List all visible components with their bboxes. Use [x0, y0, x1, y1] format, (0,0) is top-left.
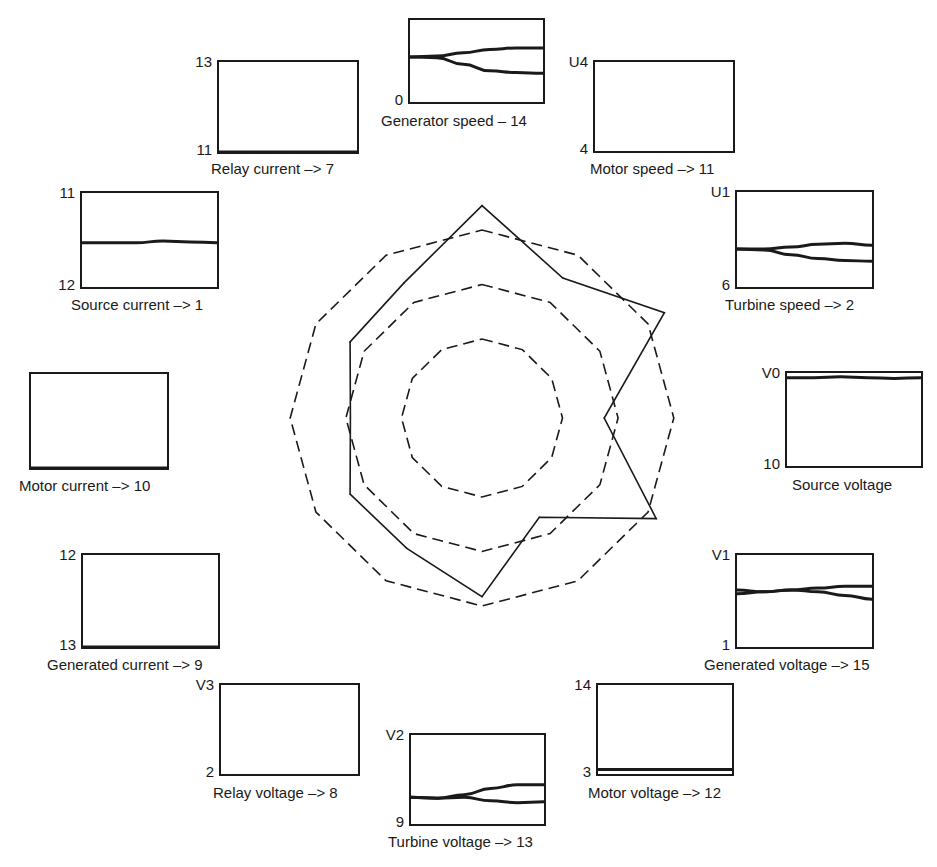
- mini-chart-frame: [219, 683, 360, 776]
- ring-middle: [346, 285, 618, 552]
- profile-vertex: [481, 205, 483, 207]
- trace-line-2: [410, 57, 543, 73]
- profile-vertex: [603, 417, 605, 419]
- mini-chart-plot: [598, 685, 732, 774]
- profile-vertex: [664, 312, 666, 314]
- mini-chart-frame: [735, 190, 874, 289]
- profile-vertex: [481, 596, 483, 598]
- mini-chart-plot: [737, 555, 872, 647]
- mini-chart-frame: [81, 553, 220, 649]
- panel-caption: Relay voltage –> 8: [213, 784, 338, 801]
- trace-line-1: [410, 48, 543, 57]
- profile-vertex: [406, 548, 408, 550]
- axis-bottom-label: 9: [364, 814, 404, 829]
- axis-bottom-label: 0: [363, 92, 403, 107]
- panel-caption: Motor current –> 10: [19, 477, 150, 494]
- mini-chart-plot: [411, 735, 544, 824]
- trace-line-1: [82, 241, 217, 243]
- profile-vertex: [350, 417, 352, 419]
- mini-chart-plot: [595, 62, 733, 151]
- axis-top-label: U4: [548, 54, 588, 69]
- profile-vertex: [403, 282, 405, 284]
- profile-polygon: [350, 206, 664, 597]
- axis-top-label: 11: [35, 185, 75, 200]
- profile-vertex: [349, 493, 351, 495]
- trace-line-2: [737, 590, 872, 599]
- mini-chart-frame: [408, 18, 545, 104]
- trace-line-2: [411, 797, 544, 802]
- mini-chart-frame: [29, 372, 169, 470]
- panel-caption: Motor speed –> 11: [590, 160, 714, 177]
- axis-top-label: 13: [172, 54, 212, 69]
- panel-caption: Turbine speed –> 2: [725, 296, 854, 313]
- mini-chart-plot: [31, 374, 167, 468]
- profile-vertex: [562, 277, 564, 279]
- axis-bottom-label: 3: [551, 764, 591, 779]
- mini-chart-frame: [785, 371, 923, 468]
- mini-chart-plot: [219, 62, 357, 152]
- panel-caption: Source current –> 1: [71, 296, 203, 313]
- panel-caption: Turbine voltage –> 13: [388, 833, 533, 850]
- axis-bottom-label: 2: [174, 764, 214, 779]
- mini-chart-plot: [83, 555, 218, 647]
- trace-line-1: [787, 377, 921, 379]
- axis-top-label: 12: [36, 547, 76, 562]
- mini-chart-plot: [787, 373, 921, 466]
- trace-line-2: [737, 249, 872, 261]
- axis-top-label: U1: [690, 184, 730, 199]
- axis-top-label: V2: [364, 727, 404, 742]
- axis-top-label: 14: [551, 677, 591, 692]
- mini-chart-frame: [735, 553, 874, 649]
- mini-chart-plot: [221, 685, 358, 774]
- axis-top-label: V1: [690, 547, 730, 562]
- axis-top-label: V0: [740, 365, 780, 380]
- profile-vertex: [539, 517, 541, 519]
- mini-chart-frame: [596, 683, 734, 776]
- mini-chart-plot: [410, 20, 543, 102]
- panel-caption: Generated current –> 9: [47, 656, 203, 673]
- axis-bottom-label: 4: [548, 141, 588, 156]
- mini-chart-frame: [593, 60, 735, 153]
- mini-chart-frame: [409, 733, 546, 826]
- axis-top-label: V3: [174, 677, 214, 692]
- mini-chart-plot: [82, 193, 217, 287]
- profile-vertex: [349, 341, 351, 343]
- axis-bottom-label: 6: [690, 277, 730, 292]
- panel-caption: Source voltage: [792, 476, 892, 493]
- ring-outer: [290, 230, 674, 606]
- mini-chart-plot: [737, 192, 872, 287]
- axis-bottom-label: 13: [36, 637, 76, 652]
- panel-caption: Generated voltage –> 15: [704, 656, 870, 673]
- trace-line-1: [411, 785, 544, 798]
- trace-line-1: [737, 243, 872, 249]
- ring-inner: [402, 339, 563, 497]
- mini-chart-frame: [80, 191, 219, 289]
- profile-vertex: [655, 518, 657, 520]
- mini-chart-frame: [217, 60, 359, 154]
- panel-caption: Generator speed – 14: [381, 112, 527, 129]
- axis-bottom-label: 1: [690, 637, 730, 652]
- axis-bottom-label: 10: [740, 456, 780, 471]
- axis-bottom-label: 11: [172, 142, 212, 157]
- panel-caption: Motor voltage –> 12: [588, 784, 721, 801]
- axis-bottom-label: 12: [35, 277, 75, 292]
- panel-caption: Relay current –> 7: [211, 160, 334, 177]
